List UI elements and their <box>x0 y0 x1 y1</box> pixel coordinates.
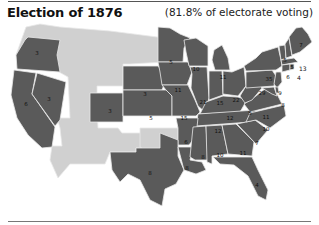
label-maryland: 8 <box>281 102 285 108</box>
label-connecticut: 6 <box>286 74 290 80</box>
label-iowa: 11 <box>175 87 182 93</box>
state-iowa <box>158 62 192 85</box>
label-mississippi: 8 <box>201 154 205 160</box>
label-new-hampshire: 5 <box>290 64 294 70</box>
label-west-virginia: 5 <box>248 110 252 116</box>
label-alabama: 10 <box>217 152 224 158</box>
label-indiana: 15 <box>217 100 224 106</box>
label-florida: 4 <box>255 182 259 188</box>
state-mississippi <box>190 126 208 160</box>
map-title: Election of 1876 <box>7 5 122 20</box>
label-missouri: 15 <box>181 115 188 121</box>
label-illinois: 21 <box>200 99 207 105</box>
map-subtitle: (81.8% of electorate voting) <box>165 6 313 18</box>
label-louisiana: 8 <box>185 165 189 171</box>
label-tennessee: 12 <box>215 128 222 134</box>
label-kansas: 5 <box>149 115 153 121</box>
bottom-rule <box>8 221 311 222</box>
label-arkansas: 6 <box>184 139 188 145</box>
label-vermont: 5 <box>283 57 287 63</box>
label-minnesota: 5 <box>169 59 173 65</box>
state-colorado <box>90 93 123 122</box>
label-south-carolina: 7 <box>255 140 259 146</box>
state-michigan <box>212 45 230 70</box>
election-map: 3 6 3 3 3 5 5 11 15 10 21 11 15 22 12 12… <box>0 22 319 212</box>
label-colorado: 3 <box>108 108 112 114</box>
label-wisconsin: 10 <box>193 66 200 72</box>
state-new-york <box>244 47 282 71</box>
label-nevada: 3 <box>47 96 51 102</box>
top-rule <box>8 1 311 2</box>
state-new-jersey <box>274 72 282 88</box>
label-nebraska: 3 <box>143 91 147 97</box>
state-kansas <box>123 90 172 116</box>
label-new-york: 35 <box>266 76 273 82</box>
label-maine: 7 <box>299 42 303 48</box>
label-new-jersey: 9 <box>278 90 282 96</box>
label-rhode-island: 4 <box>297 74 301 81</box>
label-massachusetts: 13 <box>299 65 307 72</box>
label-ohio: 22 <box>233 97 240 103</box>
state-connecticut <box>282 64 290 72</box>
label-georgia: 11 <box>240 150 247 156</box>
label-north-carolina: 10 <box>263 126 270 132</box>
label-oregon: 3 <box>35 50 39 56</box>
label-pennsylvania: 29 <box>259 90 266 96</box>
label-michigan: 11 <box>220 74 227 80</box>
label-virginia: 11 <box>263 114 270 120</box>
label-california: 6 <box>24 101 28 107</box>
label-texas: 8 <box>148 170 152 176</box>
label-kentucky: 12 <box>227 115 234 121</box>
state-florida <box>213 157 268 200</box>
